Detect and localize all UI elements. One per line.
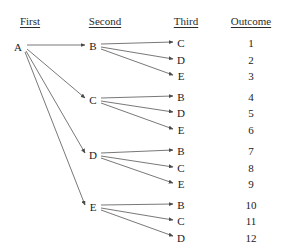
- edge-group: [25, 42, 173, 236]
- second-node-d: D: [89, 150, 97, 161]
- edge-a-to-c: [27, 49, 85, 98]
- second-node-e: E: [90, 202, 97, 213]
- column-header-3: Third: [174, 16, 198, 27]
- edge-a-to-e: [25, 52, 85, 205]
- outcome-value-7: 7: [248, 146, 254, 157]
- edge-c-to-d: [101, 101, 173, 112]
- edge-c-to-b: [101, 96, 173, 98]
- third-node-t12: D: [177, 233, 185, 244]
- outcome-value-5: 5: [248, 108, 254, 119]
- outcome-value-8: 8: [248, 163, 254, 174]
- third-node-t10: B: [177, 200, 184, 211]
- third-node-t6: E: [178, 125, 185, 136]
- edge-b-to-c: [101, 42, 173, 44]
- outcome-value-1: 1: [248, 38, 254, 49]
- second-node-c: C: [89, 95, 96, 106]
- column-header-4: Outcome: [231, 16, 271, 27]
- outcome-value-2: 2: [248, 55, 254, 66]
- outcome-value-10: 10: [246, 200, 257, 211]
- edge-e-to-d: [101, 210, 173, 236]
- outcome-value-4: 4: [248, 92, 254, 103]
- edge-d-to-b: [101, 150, 173, 153]
- column-header-2: Second: [89, 16, 121, 27]
- edge-a-to-d: [26, 51, 85, 153]
- edge-d-to-c: [101, 156, 173, 167]
- edge-c-to-e: [101, 103, 173, 129]
- outcome-value-12: 12: [246, 233, 257, 244]
- third-node-t2: D: [177, 55, 185, 66]
- edge-e-to-b: [101, 204, 173, 205]
- third-node-t5: D: [177, 108, 185, 119]
- edge-b-to-d: [101, 47, 173, 59]
- outcome-value-11: 11: [246, 216, 257, 227]
- third-node-t8: C: [177, 163, 184, 174]
- third-node-t7: B: [177, 146, 184, 157]
- third-node-t3: E: [178, 71, 185, 82]
- first-node-a: A: [14, 42, 22, 53]
- outcome-value-6: 6: [248, 125, 254, 136]
- column-header-1: First: [20, 16, 40, 27]
- tree-diagram-canvas: FirstSecondThirdOutcome A BCDE CDEBDEBCE…: [0, 0, 298, 248]
- third-node-t9: E: [178, 179, 185, 190]
- edge-d-to-e: [101, 158, 173, 183]
- outcome-value-9: 9: [248, 179, 254, 190]
- outcome-value-3: 3: [248, 71, 254, 82]
- third-node-t4: B: [177, 92, 184, 103]
- edge-b-to-e: [101, 49, 173, 75]
- edge-e-to-c: [101, 208, 173, 220]
- third-node-t1: C: [177, 38, 184, 49]
- second-node-b: B: [89, 41, 96, 52]
- third-node-t11: C: [177, 216, 184, 227]
